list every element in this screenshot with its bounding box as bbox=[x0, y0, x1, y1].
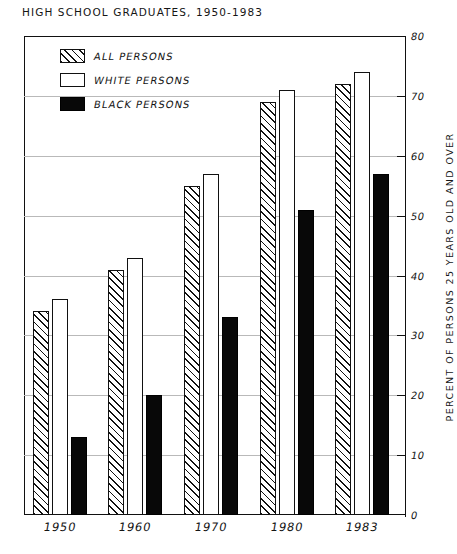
black-swatch-icon bbox=[60, 97, 85, 111]
bar-1950-all-persons bbox=[33, 311, 49, 515]
legend-item-white-persons: WHITE PERSONS bbox=[60, 70, 190, 90]
y-axis-tick-label: 80 bbox=[410, 31, 426, 42]
white-swatch-icon bbox=[60, 73, 85, 87]
bar-1960-black-persons bbox=[146, 395, 162, 515]
bar-1950-white-persons bbox=[52, 299, 68, 515]
bar-1960-white-persons bbox=[127, 258, 143, 515]
chart-title: HIGH SCHOOL GRADUATES, 1950-1983 bbox=[22, 6, 263, 18]
y-axis-tick bbox=[397, 455, 406, 456]
y-axis-tick-label: 60 bbox=[410, 150, 426, 161]
bar-1970-all-persons bbox=[184, 186, 200, 515]
y-axis-tick bbox=[397, 96, 406, 97]
y-axis-tick-label: 30 bbox=[410, 330, 426, 341]
x-axis-label-1980: 1980 bbox=[269, 520, 304, 534]
bar-1950-black-persons bbox=[71, 437, 87, 515]
legend-item-black-persons: BLACK PERSONS bbox=[60, 94, 190, 114]
chart-legend: ALL PERSONS WHITE PERSONS BLACK PERSONS bbox=[60, 46, 190, 118]
y-axis-tick bbox=[397, 156, 406, 157]
bar-1970-black-persons bbox=[222, 317, 238, 515]
bar-1980-white-persons bbox=[279, 90, 295, 515]
bar-1970-white-persons bbox=[203, 174, 219, 515]
y-axis-tick bbox=[397, 276, 406, 277]
legend-label: WHITE PERSONS bbox=[93, 75, 191, 86]
legend-label: BLACK PERSONS bbox=[93, 99, 192, 110]
y-axis-tick bbox=[397, 335, 406, 336]
y-axis-tick-label: 0 bbox=[410, 510, 419, 521]
hatched-swatch-icon bbox=[60, 49, 85, 63]
y-axis-tick bbox=[397, 216, 406, 217]
y-axis-tick-label: 50 bbox=[410, 210, 426, 221]
legend-item-all-persons: ALL PERSONS bbox=[60, 46, 190, 66]
y-axis-line bbox=[405, 36, 406, 517]
x-axis-label-1950: 1950 bbox=[42, 520, 77, 534]
bar-1983-black-persons bbox=[373, 174, 389, 515]
y-axis-tick bbox=[397, 395, 406, 396]
x-axis-label-1983: 1983 bbox=[345, 520, 380, 534]
bar-1983-all-persons bbox=[335, 84, 351, 515]
x-axis-label-1960: 1960 bbox=[118, 520, 153, 534]
y-axis-tick-label: 20 bbox=[410, 390, 426, 401]
y-axis-tick bbox=[397, 36, 406, 37]
y-axis-title: PERCENT OF PERSONS 25 YEARS OLD AND OVER bbox=[444, 127, 455, 427]
bar-1983-white-persons bbox=[354, 72, 370, 515]
legend-label: ALL PERSONS bbox=[93, 51, 175, 62]
x-axis-label-1970: 1970 bbox=[194, 520, 229, 534]
y-axis-tick-label: 10 bbox=[410, 450, 426, 461]
y-axis-tick-label: 70 bbox=[410, 90, 426, 101]
bar-1980-all-persons bbox=[260, 102, 276, 515]
bar-1980-black-persons bbox=[298, 210, 314, 515]
y-axis-tick-label: 40 bbox=[410, 270, 426, 281]
bar-1960-all-persons bbox=[108, 270, 124, 515]
bar-chart: HIGH SCHOOL GRADUATES, 1950-1983 0102030… bbox=[0, 0, 457, 554]
